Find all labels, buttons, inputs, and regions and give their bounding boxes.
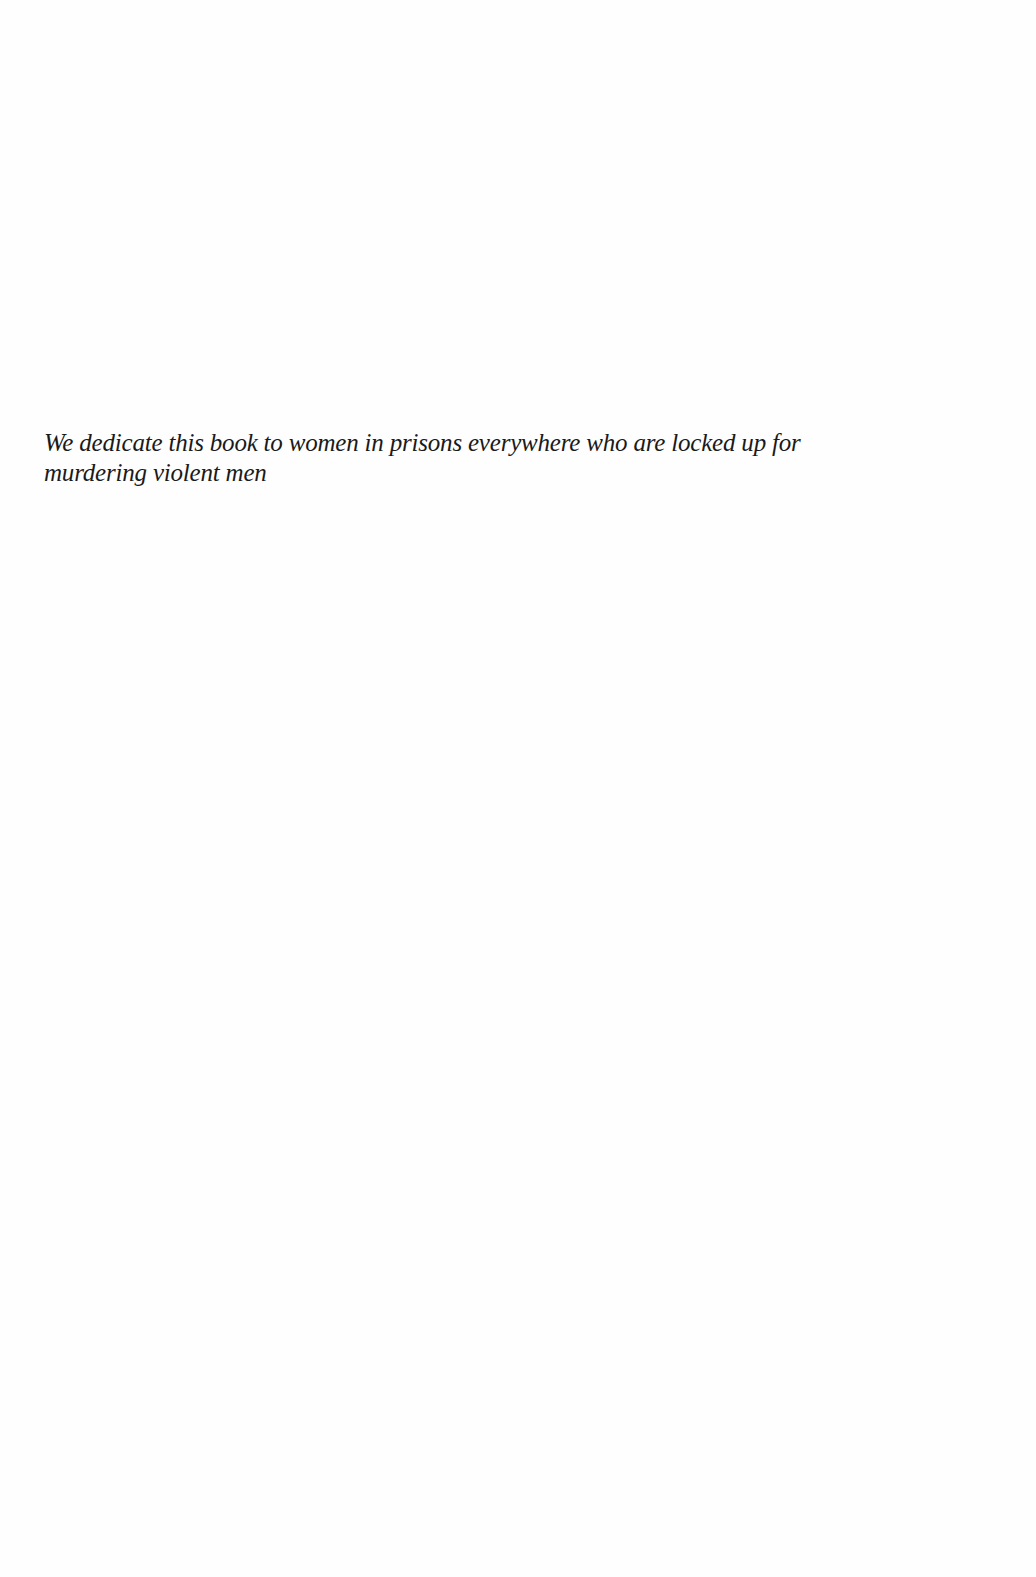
dedication-text: We dedicate this book to women in prison… (44, 428, 884, 488)
book-page: We dedicate this book to women in prison… (0, 0, 1036, 1577)
dedication-line-1: We dedicate this book to women in prison… (44, 428, 884, 458)
dedication-line-2: murdering violent men (44, 458, 884, 488)
